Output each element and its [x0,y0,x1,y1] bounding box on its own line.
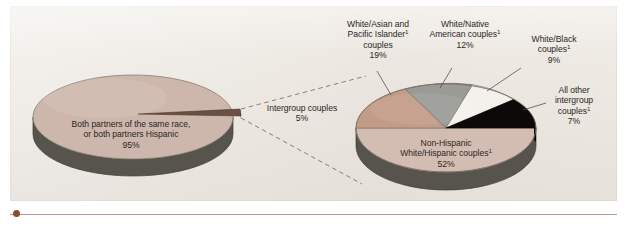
figure-container: Both partners of the same race, or both … [0,0,627,235]
connector-bottom [241,118,362,184]
chart-panel: Both partners of the same race, or both … [10,6,617,201]
label-white-black-percent: 9% [510,55,598,65]
label-white-native-american-percent: 12% [410,40,520,50]
label-white-black-line2: couples [538,44,567,54]
label-all-other-intergroup-line1: All other [558,85,589,95]
footer-divider [10,214,617,215]
label-white-black: White/Black couples1 9% [510,34,598,65]
label-intergroup-couples: Intergroup couples 5% [248,103,356,124]
label-white-black-line1: White/Black [532,34,577,44]
label-white-asian-pacific-line2: Pacific Islander [348,29,405,39]
footnote-marker-asian: 1 [405,29,408,36]
label-white-native-american: White/Native American couples1 12% [410,19,520,50]
label-intergroup-couples-line1: Intergroup couples [267,103,337,113]
label-intergroup-couples-percent: 5% [248,113,356,123]
label-nonhispanic-white-hispanic-line2: White/Hispanic couples [400,148,488,158]
label-left-pie-same-race-line1: Both partners of the same race, [72,119,191,129]
label-nonhispanic-white-hispanic-line1: Non-Hispanic [421,138,472,148]
footnote-marker-other: 1 [587,105,590,112]
leader-white-black [487,68,521,91]
label-all-other-intergroup-line2: intergroup [555,95,593,105]
label-white-asian-pacific-line1: White/Asian and [347,19,409,29]
label-white-asian-pacific-line3: couples [363,40,392,50]
footer-bullet-dot [13,210,20,217]
leader-white-asian [377,71,391,95]
right-pie-highlight [370,93,474,125]
label-nonhispanic-white-hispanic-percent: 52% [368,159,524,169]
label-all-other-intergroup: All other intergroup couples1 7% [537,85,611,126]
label-nonhispanic-white-hispanic: Non-Hispanic White/Hispanic couples1 52% [368,138,524,169]
explosion-connectors [241,76,366,184]
label-left-pie-same-race-line2: or both partners Hispanic [84,129,179,139]
label-all-other-intergroup-line3: couples [558,106,587,116]
footnote-marker-native: 1 [497,29,500,36]
label-white-native-american-line2: American couples [430,29,498,39]
footnote-marker-black: 1 [567,44,570,51]
right-pie [356,83,536,190]
footnote-marker-hispanic: 1 [488,148,491,155]
label-left-pie-same-race: Both partners of the same race, or both … [43,119,219,150]
label-left-pie-same-race-percent: 95% [43,140,219,150]
label-all-other-intergroup-percent: 7% [537,116,611,126]
label-white-asian-pacific-percent: 19% [326,50,430,60]
left-pie-highlight [43,78,167,118]
label-white-native-american-line1: White/Native [441,19,489,29]
